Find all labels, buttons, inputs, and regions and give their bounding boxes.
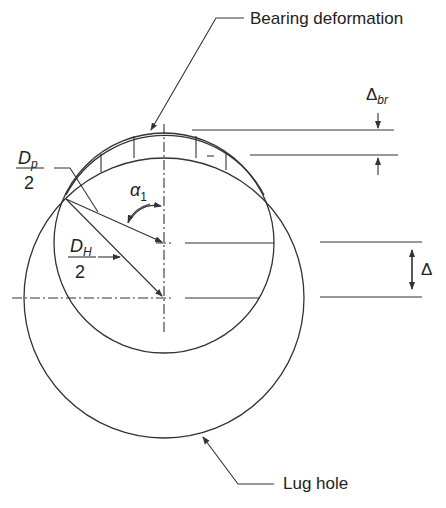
lug-pin-diagram: Δ Δbr α1 Dp 2 DH 2 Bearing deformation L… [0,0,446,508]
lug-hole-leader [203,437,274,484]
delta-br-label: Δbr [366,85,389,107]
bearing-deformation-label: Bearing deformation [250,9,403,28]
lug-hole-label: Lug hole [283,474,348,493]
dp-over-2-label: Dp 2 [16,148,98,212]
alpha-label: α1 [130,180,147,204]
dh-over-2-label: DH 2 [68,236,120,282]
deformation-outer-arc [66,135,264,195]
delta-label: Δ [421,260,432,279]
svg-text:2: 2 [75,262,85,282]
svg-text:2: 2 [24,173,34,193]
svg-text:DH: DH [70,236,92,259]
bearing-deformation-leader [151,18,244,130]
